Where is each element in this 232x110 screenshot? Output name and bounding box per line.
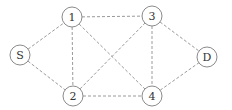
node-label: 3 [149,10,156,23]
node-label: 1 [69,11,76,24]
node-2: 2 [63,86,83,106]
edge-1-2 [72,17,73,96]
node-label: D [203,51,212,64]
node-label: S [16,49,24,62]
node-label: 4 [149,90,156,103]
nodes-layer: S1234D [10,6,217,106]
node-4: 4 [142,86,162,106]
edge-1-3 [72,16,152,17]
node-label: 2 [70,90,77,103]
node-D: D [197,47,217,67]
node-S: S [10,45,30,65]
network-diagram: S1234D [0,0,232,110]
edges-layer [20,16,207,96]
node-3: 3 [142,6,162,26]
node-1: 1 [62,7,82,27]
